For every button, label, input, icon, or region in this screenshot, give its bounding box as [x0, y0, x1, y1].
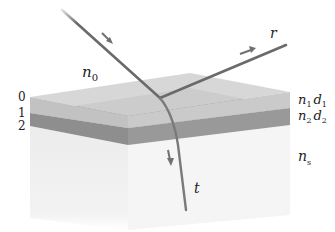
thin-film-diagram: n0 r t n1d1 n2d2 ns 0 1 2 [0, 0, 335, 232]
interface-0-label: 0 [18, 90, 26, 104]
interface-2-label: 2 [18, 119, 26, 133]
reflected-arrow-icon [240, 46, 256, 54]
incident-arrow-icon [102, 33, 113, 44]
substrate-index-label: ns [298, 148, 311, 167]
ambient-index-label: n0 [82, 63, 98, 83]
reflected-label: r [270, 25, 278, 41]
incident-ray [62, 10, 160, 98]
interface-1-label: 1 [18, 106, 26, 120]
layer-1-label: n1d1 [298, 92, 327, 109]
layer-2-label: n2d2 [298, 108, 327, 125]
transmitted-label: t [194, 180, 200, 196]
